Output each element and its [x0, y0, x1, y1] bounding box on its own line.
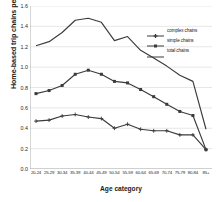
x-axis-tick-label: 20-24	[31, 170, 41, 175]
data-point	[205, 148, 208, 151]
data-point	[100, 73, 103, 76]
data-point	[87, 69, 90, 72]
x-axis-title: Age category	[30, 185, 212, 192]
x-axis-tick-label: 55-59	[122, 170, 132, 175]
x-axis-tick-label: 65-69	[149, 170, 159, 175]
y-axis-tick-label: 0.2	[12, 146, 28, 152]
x-axis-tick-label: 40-44	[83, 170, 93, 175]
data-point	[74, 73, 77, 76]
x-axis-tick-label: 25-29	[44, 170, 54, 175]
data-point	[139, 88, 142, 91]
legend-marker-none-icon	[147, 47, 164, 55]
legend-item[interactable]: complex chains	[147, 26, 213, 34]
series-line-complex-chains	[36, 114, 206, 149]
x-axis-tick-label: 45-49	[96, 170, 106, 175]
y-axis-tick-label: 0.4	[12, 125, 28, 131]
legend-label: total chains	[167, 48, 189, 53]
data-point	[165, 103, 168, 106]
x-axis-tick-label: 30-34	[57, 170, 67, 175]
chart-figure: Home-based trip chains per day 0.00.20.4…	[0, 0, 218, 202]
data-point	[191, 114, 194, 117]
x-axis-tick-label: 50-54	[109, 170, 119, 175]
legend-marker-plus-icon	[147, 26, 164, 34]
data-point	[113, 80, 116, 83]
y-axis-tick-label: 1.0	[12, 64, 28, 70]
legend-label: simple chains	[167, 38, 194, 43]
x-axis-tick-labels: 20-2425-2930-3435-3940-4445-4950-5455-59…	[30, 170, 212, 182]
series-line-simple-chains	[36, 70, 206, 149]
legend-item[interactable]: simple chains	[147, 36, 213, 44]
data-point	[35, 92, 38, 95]
x-axis-tick-label: 60-64	[135, 170, 145, 175]
legend-label: complex chains	[167, 28, 197, 33]
y-axis-tick-label: 0.0	[12, 166, 28, 172]
data-point	[178, 110, 181, 113]
legend-marker-square-icon	[147, 36, 164, 44]
x-axis-tick-label: 70-74	[162, 170, 172, 175]
y-axis-tick-label: 0.6	[12, 105, 28, 111]
y-axis-tick-label: 1.2	[12, 44, 28, 50]
x-axis-tick-label: 75-79	[175, 170, 185, 175]
y-axis-tick-label: 0.8	[12, 85, 28, 91]
x-axis-tick-label: 35-39	[70, 170, 80, 175]
data-point	[126, 81, 129, 84]
legend-item[interactable]: total chains	[147, 47, 213, 55]
y-axis-tick-label: 1.6	[12, 3, 28, 9]
x-axis-tick-label: 85+	[203, 170, 210, 175]
x-axis-tick-label: 80-84	[188, 170, 198, 175]
y-axis-tick-label: 1.4	[12, 23, 28, 29]
data-point	[48, 89, 51, 92]
data-point	[152, 95, 155, 98]
chart-legend: complex chainssimple chainstotal chains	[147, 26, 213, 57]
data-point	[61, 84, 64, 87]
